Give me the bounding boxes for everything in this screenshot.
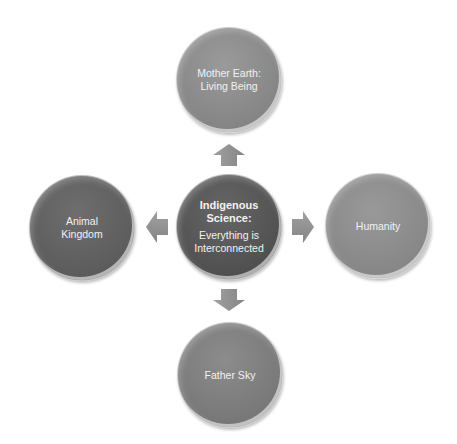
node-label-line: Living Being (192, 80, 265, 93)
node-humanity: Humanity (325, 173, 431, 279)
node-label-line: Kingdom (53, 228, 110, 241)
node-label-line: Mother Earth: (189, 67, 269, 80)
node-indigenous-science: Indigenous Science: Everything is Interc… (176, 174, 282, 280)
center-body-line: Everything is (191, 229, 267, 242)
node-label-line: Humanity (348, 220, 408, 233)
center-body-line: Interconnected (186, 242, 271, 255)
node-animal-kingdom: Animal Kingdom (29, 175, 135, 281)
node-label-line: Father Sky (197, 369, 264, 382)
node-father-sky: Father Sky (177, 322, 283, 428)
node-mother-earth: Mother Earth: Living Being (176, 27, 282, 133)
center-title-line: Science: (198, 212, 259, 225)
center-title-line: Indigenous (192, 199, 267, 212)
node-label-line: Animal (58, 215, 106, 228)
